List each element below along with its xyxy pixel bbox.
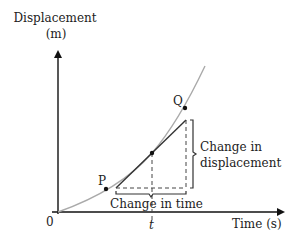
x-axis-label: Time (s) [232, 217, 282, 231]
displacement-annotation-line2: displacement [200, 156, 281, 170]
tangent-point [150, 151, 154, 155]
point-q [183, 106, 187, 110]
displacement-brace [190, 120, 196, 188]
point-q-label: Q [173, 94, 183, 108]
displacement-annotation-line1: Change in [200, 140, 262, 154]
point-p-label: P [98, 174, 106, 188]
origin-label: 0 [46, 215, 54, 229]
time-annotation: Change in time [110, 197, 203, 211]
y-axis-label-line2: (m) [46, 27, 67, 41]
displacement-time-diagram: Displacement (m) Time (s) 0 t P Q Change… [0, 0, 297, 246]
displacement-curve [58, 66, 205, 212]
t-tick-label: t [149, 218, 154, 232]
y-axis-label-line1: Displacement [13, 11, 96, 25]
